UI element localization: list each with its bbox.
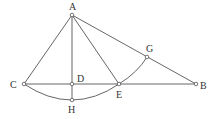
segment-ac bbox=[24, 15, 72, 84]
geometry-diagram: A C D H E G B bbox=[0, 0, 217, 119]
arc-e-g bbox=[119, 57, 147, 84]
label-a: A bbox=[69, 1, 77, 12]
label-e: E bbox=[116, 89, 122, 100]
label-c: C bbox=[10, 79, 17, 90]
point-a bbox=[70, 13, 74, 17]
point-e bbox=[117, 82, 121, 86]
point-d bbox=[70, 82, 74, 86]
point-g bbox=[145, 55, 149, 59]
label-d: D bbox=[77, 73, 84, 84]
label-g: G bbox=[146, 43, 153, 54]
label-b: B bbox=[200, 80, 207, 91]
point-h bbox=[70, 98, 74, 102]
arc-c-h-e bbox=[24, 84, 119, 100]
point-b bbox=[194, 82, 198, 86]
point-c bbox=[22, 82, 26, 86]
segment-ab bbox=[72, 15, 196, 84]
label-h: H bbox=[68, 104, 75, 115]
